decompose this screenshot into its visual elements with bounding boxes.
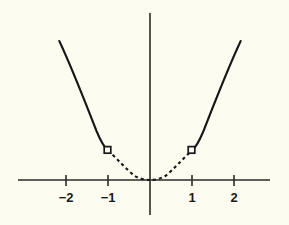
x-tick-label-pos1: 1 [188, 190, 195, 205]
x-tick-label-neg2: −2 [59, 190, 73, 205]
curve-right-solid [192, 41, 241, 151]
open-point-marker-left [104, 147, 111, 154]
x-tick-label-pos2: 2 [230, 190, 237, 205]
parabola-figure: −2 −1 1 2 [0, 0, 289, 225]
x-tick-label-neg1: −1 [101, 190, 115, 205]
open-point-marker-right [188, 147, 195, 154]
plot-canvas [0, 0, 289, 225]
curve-left-solid [59, 41, 108, 151]
